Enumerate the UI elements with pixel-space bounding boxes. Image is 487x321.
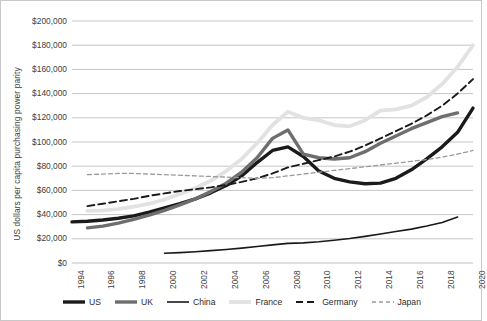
x-tick-label: 2016 bbox=[415, 270, 425, 289]
y-tick-label: $80,000 bbox=[15, 161, 67, 171]
legend-item-china[interactable]: China bbox=[167, 297, 215, 307]
y-tick-label: $60,000 bbox=[15, 185, 67, 195]
legend-swatch-china bbox=[167, 297, 189, 307]
y-tick-label: $180,000 bbox=[15, 40, 67, 50]
legend-label: Germany bbox=[322, 297, 357, 307]
y-tick-label: $40,000 bbox=[15, 209, 67, 219]
legend-item-us[interactable]: US bbox=[63, 297, 101, 307]
legend-item-france[interactable]: France bbox=[229, 297, 282, 307]
legend-label: US bbox=[89, 297, 101, 307]
legend-item-japan[interactable]: Japan bbox=[372, 297, 421, 307]
x-tick-label: 2008 bbox=[292, 270, 302, 289]
x-tick-label: 2018 bbox=[446, 270, 456, 289]
y-tick-label: $100,000 bbox=[15, 137, 67, 147]
plot-area bbox=[1, 1, 483, 321]
legend-swatch-uk bbox=[115, 297, 137, 307]
x-tick-label: 1996 bbox=[106, 270, 116, 289]
x-tick-label: 2014 bbox=[384, 270, 394, 289]
chart-legend: USUKChinaFranceGermanyJapan bbox=[1, 297, 483, 307]
x-tick-label: 2004 bbox=[230, 270, 240, 289]
legend-item-uk[interactable]: UK bbox=[115, 297, 153, 307]
legend-label: France bbox=[255, 297, 282, 307]
y-tick-label: $20,000 bbox=[15, 233, 67, 243]
y-tick-label: $160,000 bbox=[15, 64, 67, 74]
legend-label: UK bbox=[141, 297, 153, 307]
series-line-china bbox=[165, 217, 458, 253]
series-line-japan bbox=[87, 150, 473, 178]
y-tick-label: $0 bbox=[15, 258, 67, 268]
x-tick-label: 1998 bbox=[137, 270, 147, 289]
series-line-germany bbox=[87, 79, 473, 206]
x-tick-label: 1994 bbox=[76, 270, 86, 289]
legend-swatch-us bbox=[63, 297, 85, 307]
x-tick-label: 2010 bbox=[322, 270, 332, 289]
legend-item-germany[interactable]: Germany bbox=[296, 297, 357, 307]
x-tick-label: 2002 bbox=[199, 270, 209, 289]
x-tick-label: 2000 bbox=[168, 270, 178, 289]
legend-label: China bbox=[193, 297, 215, 307]
x-tick-label: 2006 bbox=[261, 270, 271, 289]
x-tick-label: 2012 bbox=[353, 270, 363, 289]
y-tick-label: $140,000 bbox=[15, 88, 67, 98]
x-tick-label: 2020 bbox=[477, 270, 487, 289]
legend-swatch-japan bbox=[372, 297, 394, 307]
y-tick-label: $200,000 bbox=[15, 16, 67, 26]
series-line-uk bbox=[87, 113, 457, 228]
legend-swatch-france bbox=[229, 297, 251, 307]
legend-swatch-germany bbox=[296, 297, 318, 307]
y-tick-label: $120,000 bbox=[15, 112, 67, 122]
legend-label: Japan bbox=[398, 297, 421, 307]
